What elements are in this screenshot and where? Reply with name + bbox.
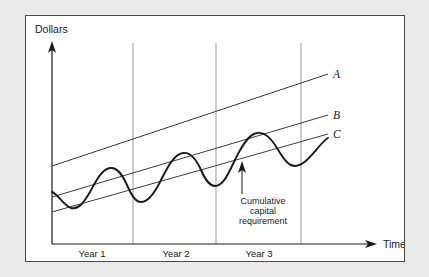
cumulative-capital-requirement-annotation: Cumulative capital requirement xyxy=(239,196,288,226)
trend-line-a xyxy=(52,74,328,166)
y-axis xyxy=(48,41,56,244)
trend-line-c xyxy=(52,134,328,212)
cumulative-capital-curve xyxy=(52,133,328,208)
series-label-b: B xyxy=(333,109,340,121)
x-axis xyxy=(52,240,377,248)
tick-label-year-1: Year 1 xyxy=(78,248,105,259)
x-axis-title: Time xyxy=(383,238,404,250)
tick-label-year-2: Year 2 xyxy=(162,248,189,259)
tick-label-year-3: Year 3 xyxy=(245,248,272,259)
y-axis-title: Dollars xyxy=(35,23,68,35)
annotation-leader xyxy=(238,161,246,194)
series-label-c: C xyxy=(333,128,341,140)
figure-panel: Dollars Time A B C Year 1 Year 2 Year 3 … xyxy=(25,15,405,262)
chart-svg: Dollars Time A B C Year 1 Year 2 Year 3 … xyxy=(26,16,404,261)
annotation-text-line-1: Cumulative xyxy=(240,196,285,206)
series-label-a: A xyxy=(332,68,341,80)
annotation-text-line-2: capital xyxy=(250,206,276,216)
trend-line-group xyxy=(52,74,328,212)
annotation-text-line-3: requirement xyxy=(239,216,288,226)
